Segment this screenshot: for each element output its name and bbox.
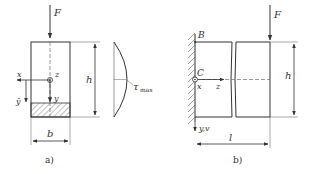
point-b-label: B [197, 30, 205, 40]
point-c-label: C [197, 68, 204, 78]
x-label: x [197, 82, 202, 91]
height-label: h [86, 74, 92, 85]
figure-a-cross-section: F z x y ȳ h b τ max [15, 5, 153, 165]
beam-diagram: F z x y ȳ h b τ max [0, 0, 310, 174]
caption-b: b) [233, 155, 242, 165]
force-label: F [273, 9, 282, 20]
force-label: F [53, 7, 62, 18]
yv-label: y,v [198, 124, 210, 133]
x-label: x [17, 70, 22, 79]
width-label: b [47, 128, 53, 139]
z-label: z [54, 70, 60, 79]
y-label: y [53, 94, 59, 103]
hatched-strip [31, 103, 70, 117]
caption-a: a) [45, 155, 54, 165]
figure-b-cantilever: B C x z y,v F h l b) [188, 5, 298, 165]
z-label: z [215, 82, 221, 91]
stress-label: τ [133, 81, 139, 92]
length-label: l [229, 132, 232, 143]
ybar-label: ȳ [15, 97, 21, 106]
height-label: h [285, 70, 291, 81]
stress-subscript: max [140, 86, 153, 93]
